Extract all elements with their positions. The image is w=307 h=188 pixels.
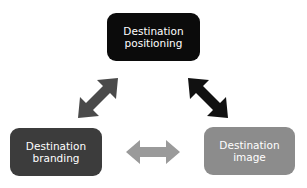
node-destination-branding: Destination branding	[10, 128, 102, 176]
arrow-branding-image	[126, 140, 180, 164]
arrow-positioning-image	[188, 78, 228, 118]
node-label-line2: image	[219, 151, 279, 163]
arrow-branding-positioning	[78, 78, 118, 118]
node-label-line2: branding	[26, 152, 86, 164]
node-label-line1: Destination	[219, 139, 279, 151]
node-destination-positioning: Destination positioning	[107, 13, 200, 61]
node-destination-image: Destination image	[204, 127, 295, 175]
node-label-line1: Destination	[26, 140, 86, 152]
node-label-line2: positioning	[123, 37, 183, 49]
node-label-line1: Destination	[123, 25, 183, 37]
